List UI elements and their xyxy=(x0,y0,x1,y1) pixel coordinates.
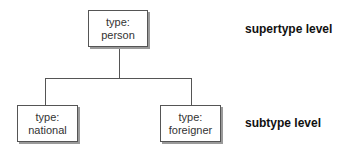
connector-vertical-national xyxy=(45,78,46,105)
node-person: type: person xyxy=(88,10,148,47)
node-national-line2: national xyxy=(28,124,67,137)
node-foreigner-line1: type: xyxy=(179,111,203,124)
node-national: type: national xyxy=(17,105,78,142)
subtype-level-label: subtype level xyxy=(245,116,321,130)
node-person-line2: person xyxy=(101,29,135,42)
connector-vertical-foreigner xyxy=(191,78,192,105)
supertype-level-label: supertype level xyxy=(245,22,332,36)
connector-vertical-person xyxy=(119,47,120,79)
node-foreigner: type: foreigner xyxy=(160,105,221,142)
node-person-line1: type: xyxy=(106,16,130,29)
node-foreigner-line2: foreigner xyxy=(169,124,212,137)
node-national-line1: type: xyxy=(36,111,60,124)
connector-horizontal xyxy=(45,78,192,79)
